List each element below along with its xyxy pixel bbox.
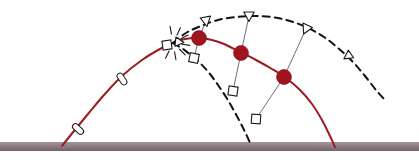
trajectory-diagram-canvas — [0, 0, 419, 164]
lower-sq-2 — [228, 86, 238, 96]
burst-square — [162, 40, 172, 50]
lower-sq-1-shape — [189, 53, 200, 64]
burst-square-shape — [162, 40, 172, 50]
burst-ray-1 — [182, 44, 190, 45]
trajectory-curves-group — [62, 16, 385, 147]
fragment-dot-1 — [192, 31, 207, 46]
projectile-marker-1-shape — [71, 122, 85, 135]
fragment-dot-2 — [234, 46, 249, 61]
lower-sq-2-shape — [228, 86, 238, 96]
burst-ray-3 — [175, 52, 176, 60]
lower-sq-3-shape — [251, 114, 261, 124]
fragment-dot-3 — [277, 70, 292, 85]
projectile-marker-1 — [71, 122, 85, 135]
lower-sq-3 — [251, 114, 261, 124]
projectile-diagram-figure — [0, 0, 419, 164]
burst-ray-4 — [166, 51, 170, 58]
lower-sq-1 — [189, 53, 200, 64]
connector-lines-group — [194, 16, 306, 119]
burst-ray-8 — [170, 26, 171, 34]
burst-ray-9 — [177, 28, 181, 35]
